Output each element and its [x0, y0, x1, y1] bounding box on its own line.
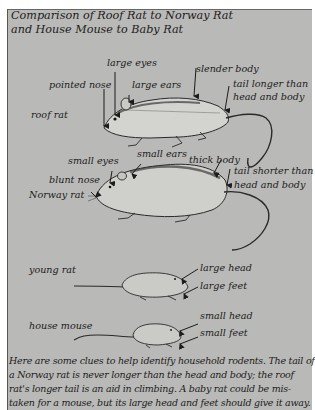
label-small-head: small head: [200, 311, 253, 321]
caption-line: a Norway rat is never longer than the he…: [9, 368, 305, 382]
label-norway-tail-line2: head and body: [234, 180, 305, 190]
label-large-ears: large ears: [132, 80, 181, 90]
young-rat-drawing: [74, 273, 188, 300]
label-thick-body: thick body: [189, 155, 240, 165]
caption-line: taken for a mouse, but its large head an…: [9, 396, 305, 410]
label-blunt-nose: blunt nose: [49, 175, 100, 185]
rodent-illustrations: [0, 0, 315, 410]
label-roof-rat: roof rat: [31, 110, 68, 120]
label-large-eyes: large eyes: [107, 58, 157, 68]
label-slender-body: slender body: [196, 64, 259, 74]
label-roof-tail-line2: head and body: [233, 92, 304, 102]
roof-rat-drawing: [104, 98, 272, 167]
label-large-feet: large feet: [200, 281, 247, 291]
figure-title: Comparison of Roof Rat to Norway Rat and…: [11, 9, 233, 37]
norway-rat-drawing: [88, 164, 269, 250]
label-small-feet: small feet: [200, 328, 248, 338]
label-pointed-nose: pointed nose: [49, 80, 111, 90]
figure-title-line2: and House Mouse to Baby Rat: [11, 23, 183, 36]
label-small-eyes: small eyes: [68, 156, 119, 166]
label-small-ears: small ears: [137, 149, 187, 159]
label-large-head: large head: [200, 263, 252, 273]
label-house-mouse: house mouse: [29, 321, 92, 331]
label-young-rat: young rat: [29, 265, 76, 275]
caption-line: Here are some clues to help identify hou…: [9, 354, 305, 368]
figure-title-line1: Comparison of Roof Rat to Norway Rat: [11, 9, 233, 22]
figure-caption: Here are some clues to help identify hou…: [9, 354, 305, 410]
caption-line: rat's longer tail is an aid in climbing.…: [9, 382, 305, 396]
label-norway-tail-line1: tail shorter than: [234, 166, 313, 176]
label-norway-rat: Norway rat: [29, 190, 84, 200]
label-roof-tail-line1: tail longer than: [233, 79, 308, 89]
